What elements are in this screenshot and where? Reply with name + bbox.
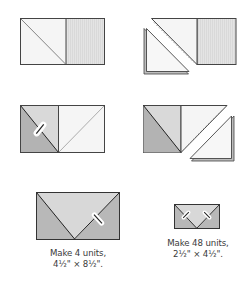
unit-size: 4½" × 8½". (28, 259, 128, 270)
flying-geese-unit-large (37, 193, 120, 240)
unit-count: Make 48 units, (148, 238, 248, 249)
step-2-stitch-trim (144, 19, 236, 75)
step-1-mark-diagonal (21, 19, 105, 65)
unit-caption-large: Make 4 units, 4½" × 8½". (28, 248, 128, 269)
unit-size: 2½" × 4½". (148, 249, 248, 260)
striped-rectangle (197, 19, 236, 65)
step-3-press (21, 106, 105, 153)
unit-count: Make 4 units, (28, 248, 128, 259)
unit-caption-small: Make 48 units, 2½" × 4½". (148, 238, 248, 259)
step-4-stitch-trim (144, 106, 235, 162)
flying-geese-unit-small (175, 205, 220, 229)
